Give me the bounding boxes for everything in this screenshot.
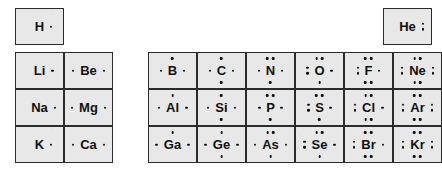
lewis-dots-right <box>50 25 53 28</box>
lewis-dots-left <box>72 69 75 72</box>
electron-dot <box>258 106 261 109</box>
lewis-dots-right <box>183 69 186 72</box>
element-cell-s[interactable]: S <box>295 89 344 126</box>
element-cell-h[interactable]: H <box>15 8 64 45</box>
element-cell-li[interactable]: Li <box>15 52 64 89</box>
electron-dot <box>364 94 367 97</box>
electron-dot <box>413 57 416 60</box>
lewis-symbol-group: B <box>168 64 177 78</box>
electron-dot <box>315 94 318 97</box>
element-cell-ar[interactable]: Ar <box>393 89 442 126</box>
element-symbol: Be <box>80 64 97 78</box>
lewis-dots-bottom <box>364 155 373 158</box>
lewis-dots-left <box>209 69 212 72</box>
element-cell-o[interactable]: O <box>295 52 344 89</box>
lewis-dots-bottom <box>364 81 373 84</box>
electron-dot <box>54 106 57 109</box>
lewis-dots-right <box>103 69 106 72</box>
element-cell-k[interactable]: K <box>15 126 64 163</box>
electron-dot <box>285 143 288 146</box>
element-symbol: F <box>365 64 373 78</box>
element-cell-c[interactable]: C <box>197 52 246 89</box>
lewis-dots-left <box>353 140 356 149</box>
lewis-dots-left <box>258 69 261 72</box>
electron-dot <box>321 131 324 134</box>
element-cell-f[interactable]: F <box>344 52 393 89</box>
lewis-dots-top <box>266 94 275 97</box>
lewis-symbol-group: Na <box>31 101 48 115</box>
lewis-dots-left <box>71 106 74 109</box>
element-cell-kr[interactable]: Kr <box>393 126 442 163</box>
element-cell-cl[interactable]: Cl <box>344 89 393 126</box>
element-cell-ne[interactable]: Ne <box>393 52 442 89</box>
lewis-dots-left <box>354 103 357 112</box>
lewis-symbol-group: O <box>314 64 324 78</box>
lewis-dots-right <box>381 106 384 109</box>
electron-dot <box>413 131 416 134</box>
electron-dot <box>321 57 324 60</box>
element-cell-ga[interactable]: Ga <box>148 126 197 163</box>
electron-dot <box>354 109 357 112</box>
electron-dot <box>306 72 309 75</box>
lewis-dots-right <box>234 106 237 109</box>
lewis-symbol-group: Al <box>166 101 179 115</box>
element-cell-p[interactable]: P <box>246 89 295 126</box>
lewis-dots-right <box>378 69 381 72</box>
element-cell-as[interactable]: As <box>246 126 295 163</box>
electron-dot <box>364 155 367 158</box>
electron-dot <box>171 94 174 97</box>
lewis-dots-right <box>51 69 54 72</box>
lewis-dots-bottom <box>413 81 422 84</box>
element-cell-br[interactable]: Br <box>344 126 393 163</box>
element-symbol: Na <box>31 101 48 115</box>
lewis-symbol-group: F <box>365 64 373 78</box>
electron-dot <box>71 106 74 109</box>
lewis-symbol-group: Ar <box>410 101 424 115</box>
electron-dot <box>370 94 373 97</box>
electron-dot <box>272 94 275 97</box>
lewis-dots-left <box>307 103 310 112</box>
element-cell-b[interactable]: B <box>148 52 197 89</box>
electron-dot <box>269 155 272 158</box>
lewis-symbol-group: P <box>266 101 275 115</box>
element-cell-n[interactable]: N <box>246 52 295 89</box>
element-cell-al[interactable]: Al <box>148 89 197 126</box>
lewis-dots-top <box>266 57 275 60</box>
electron-dot <box>303 146 306 149</box>
lewis-symbol-group: C <box>217 64 226 78</box>
electron-dot <box>307 109 310 112</box>
element-cell-ge[interactable]: Ge <box>197 126 246 163</box>
electron-dot <box>158 106 161 109</box>
element-symbol: Br <box>361 138 375 152</box>
electron-dot <box>370 81 373 84</box>
lewis-dots-right <box>333 143 336 146</box>
electron-dot <box>329 106 332 109</box>
lewis-dots-top <box>171 94 174 97</box>
electron-dot <box>104 106 107 109</box>
lewis-dots-left <box>158 106 161 109</box>
lewis-dots-top <box>220 94 223 97</box>
electron-dot <box>72 69 75 72</box>
element-cell-si[interactable]: Si <box>197 89 246 126</box>
lewis-dots-right <box>232 69 235 72</box>
lewis-symbol-group: Ne <box>409 64 426 78</box>
electron-dot <box>419 155 422 158</box>
electron-dot <box>185 106 188 109</box>
lewis-dots-top <box>171 131 174 134</box>
lewis-symbol-group: S <box>315 101 324 115</box>
lewis-symbol-group: Kr <box>410 138 424 152</box>
lewis-symbol-group: Si <box>215 101 227 115</box>
element-cell-ca[interactable]: Ca <box>64 126 113 163</box>
electron-dot <box>50 143 53 146</box>
element-symbol: Li <box>34 64 46 78</box>
electron-dot <box>220 118 223 121</box>
lewis-symbol-group: N <box>266 64 275 78</box>
element-cell-he[interactable]: He <box>383 8 432 45</box>
element-cell-mg[interactable]: Mg <box>64 89 113 126</box>
element-symbol: Ga <box>164 138 181 152</box>
element-cell-se[interactable]: Se <box>295 126 344 163</box>
element-cell-na[interactable]: Na <box>15 89 64 126</box>
lewis-dots-right <box>329 106 332 109</box>
lewis-dots-bottom <box>413 118 422 121</box>
element-cell-be[interactable]: Be <box>64 52 113 89</box>
